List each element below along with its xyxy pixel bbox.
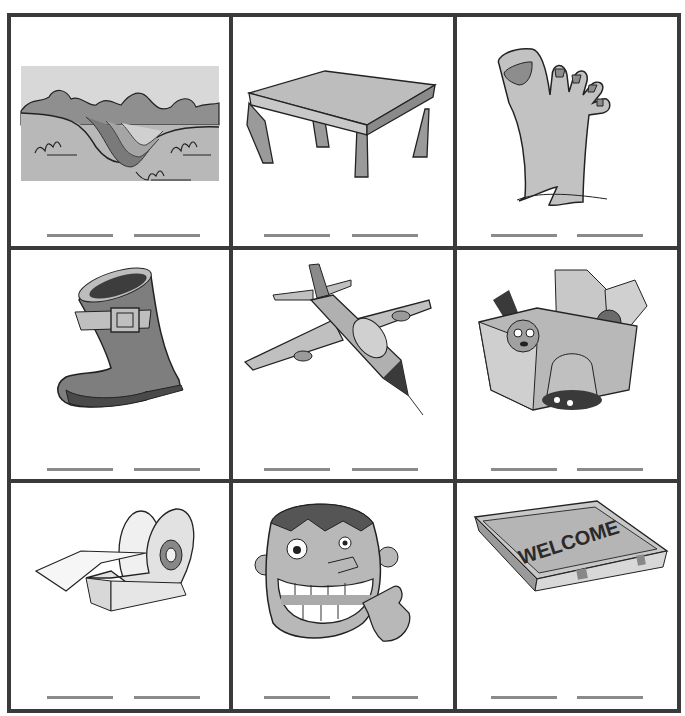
answer-blank-line[interactable] bbox=[47, 696, 113, 699]
table-picture bbox=[233, 17, 453, 246]
answer-blank-line[interactable] bbox=[264, 234, 330, 237]
tape-dispenser-picture bbox=[11, 483, 229, 713]
cell-teeth-smile: teeth-smile bbox=[233, 483, 453, 713]
worksheet-grid: valley table bbox=[7, 13, 681, 713]
cell-jet-plane: jet-plane bbox=[233, 250, 453, 479]
answer-blank-line[interactable] bbox=[577, 696, 643, 699]
boot-picture bbox=[11, 250, 229, 479]
answer-blank-line[interactable] bbox=[134, 234, 200, 237]
answer-blank-line[interactable] bbox=[134, 468, 200, 471]
answer-blank-line[interactable] bbox=[491, 468, 557, 471]
cell-toy-box: toy-box bbox=[457, 250, 677, 479]
answer-blank-line[interactable] bbox=[577, 468, 643, 471]
jet-plane-picture bbox=[233, 250, 453, 479]
answer-blank-line[interactable] bbox=[352, 234, 418, 237]
answer-blank-line[interactable] bbox=[577, 234, 643, 237]
cell-foot: foot bbox=[457, 17, 677, 246]
cell-tape-dispenser: tape-dispenser bbox=[11, 483, 229, 713]
teeth-smile-picture bbox=[233, 483, 453, 713]
answer-blank-line[interactable] bbox=[352, 468, 418, 471]
answer-blank-line[interactable] bbox=[491, 234, 557, 237]
cell-table: table bbox=[233, 17, 453, 246]
foot-picture bbox=[457, 17, 677, 246]
answer-blank-line[interactable] bbox=[134, 696, 200, 699]
cell-valley: valley bbox=[11, 17, 229, 246]
cell-welcome-mat: welcome-mat WELCOME bbox=[457, 483, 677, 713]
cell-boot: boot bbox=[11, 250, 229, 479]
answer-blank-line[interactable] bbox=[47, 234, 113, 237]
welcome-mat-picture: WELCOME bbox=[457, 483, 677, 713]
valley-picture bbox=[11, 17, 229, 246]
answer-blank-line[interactable] bbox=[47, 468, 113, 471]
answer-blank-line[interactable] bbox=[352, 696, 418, 699]
answer-blank-line[interactable] bbox=[264, 696, 330, 699]
toy-box-picture bbox=[457, 250, 677, 479]
answer-blank-line[interactable] bbox=[264, 468, 330, 471]
answer-blank-line[interactable] bbox=[491, 696, 557, 699]
